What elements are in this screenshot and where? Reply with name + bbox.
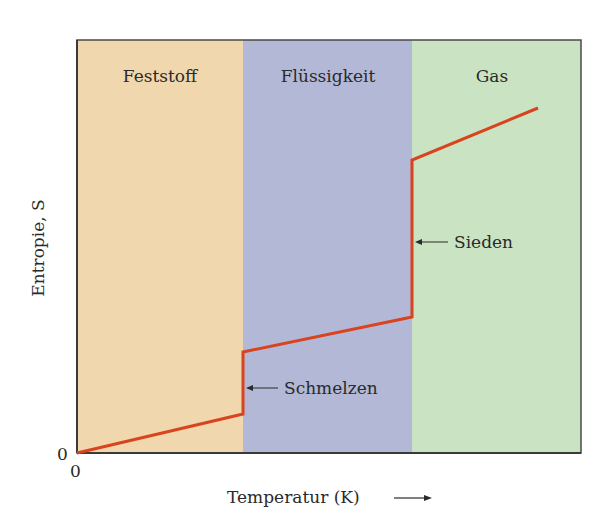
region-label-gas: Gas [476, 66, 508, 86]
y-origin-label: 0 [57, 444, 68, 464]
melting-label: Schmelzen [284, 378, 378, 398]
region-label-liquid: Flüssigkeit [281, 66, 376, 86]
boiling-label: Sieden [454, 232, 513, 252]
x-axis-direction-arrow-icon [394, 495, 432, 501]
y-axis-label: Entropie, S [28, 199, 48, 296]
x-axis-label: Temperatur (K) [227, 487, 360, 507]
region-solid [77, 40, 243, 453]
x-origin-label: 0 [70, 461, 81, 481]
region-label-solid: Feststoff [123, 66, 199, 86]
entropy-temperature-chart: Feststoff Flüssigkeit Gas Schmelzen Sied… [0, 0, 615, 529]
